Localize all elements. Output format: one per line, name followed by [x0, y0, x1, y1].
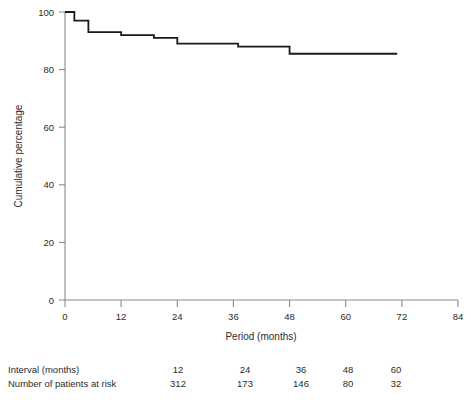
interval-value-48: 48 — [333, 363, 363, 377]
survival-curve-figure: 100 80 60 40 20 0 0 12 24 36 48 60 72 84… — [0, 0, 471, 409]
x-tick-label-60: 60 — [340, 311, 351, 322]
y-tick-label-80: 80 — [43, 64, 54, 75]
at-risk-value-36: 146 — [286, 377, 316, 391]
interval-value-12: 12 — [163, 363, 193, 377]
y-tick-label-100: 100 — [38, 7, 54, 18]
row-label-at-risk: Number of patients at risk — [8, 377, 116, 391]
x-axis-ticks — [65, 300, 458, 307]
survival-step-curve — [65, 12, 397, 54]
y-axis-ticks — [59, 12, 65, 300]
x-tick-label-48: 48 — [284, 311, 295, 322]
interval-value-24: 24 — [230, 363, 260, 377]
y-axis-title: Cumulative percentage — [13, 104, 24, 207]
at-risk-value-60: 32 — [381, 377, 411, 391]
table-row-interval: Interval (months) 12 24 36 48 60 — [8, 363, 463, 377]
x-axis-title: Period (months) — [225, 331, 296, 342]
x-tick-label-0: 0 — [62, 311, 67, 322]
table-row-at-risk: Number of patients at risk 312 173 146 8… — [8, 377, 463, 391]
at-risk-value-12: 312 — [163, 377, 193, 391]
interval-value-60: 60 — [381, 363, 411, 377]
y-tick-label-60: 60 — [43, 122, 54, 133]
x-tick-label-84: 84 — [453, 311, 464, 322]
x-tick-label-72: 72 — [397, 311, 408, 322]
y-tick-label-20: 20 — [43, 237, 54, 248]
x-tick-label-12: 12 — [116, 311, 127, 322]
y-tick-label-40: 40 — [43, 179, 54, 190]
x-tick-label-36: 36 — [228, 311, 239, 322]
number-at-risk-table: Interval (months) 12 24 36 48 60 Number … — [8, 363, 463, 391]
chart-canvas: 100 80 60 40 20 0 0 12 24 36 48 60 72 84… — [0, 0, 471, 409]
y-tick-label-0: 0 — [49, 295, 54, 306]
at-risk-value-24: 173 — [230, 377, 260, 391]
row-label-interval: Interval (months) — [8, 363, 79, 377]
x-tick-label-24: 24 — [172, 311, 183, 322]
interval-value-36: 36 — [286, 363, 316, 377]
at-risk-value-48: 80 — [333, 377, 363, 391]
